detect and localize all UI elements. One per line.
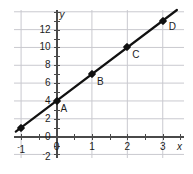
y-tick-label: 10 bbox=[39, 42, 50, 52]
x-axis-tick bbox=[21, 134, 22, 140]
point-label-d: D bbox=[169, 22, 176, 32]
y-tick-label: 12 bbox=[39, 25, 50, 35]
x-tick-label: 2 bbox=[117, 142, 137, 152]
y-axis-tick bbox=[54, 65, 60, 66]
y-axis-tick bbox=[54, 128, 60, 129]
y-axis-tick bbox=[54, 110, 60, 111]
y-tick-label: 4 bbox=[45, 96, 51, 106]
x-axis-tick bbox=[92, 134, 93, 140]
y-axis-tick bbox=[54, 83, 60, 84]
y-axis-tick bbox=[54, 39, 60, 40]
y-tick-label: 6 bbox=[45, 78, 51, 88]
point-label-b: B bbox=[97, 77, 104, 87]
y-axis-tick bbox=[54, 21, 60, 22]
x-axis-tick bbox=[163, 134, 164, 140]
x-tick-label: -1 bbox=[11, 142, 31, 155]
y-axis-tick bbox=[54, 119, 60, 120]
y-axis-tick bbox=[54, 74, 60, 75]
x-axis-tick bbox=[39, 134, 40, 140]
x-axis-tick bbox=[74, 134, 75, 140]
x-axis-tick bbox=[145, 134, 146, 140]
x-axis-tick bbox=[180, 134, 181, 140]
y-axis-tick bbox=[54, 56, 60, 57]
coordinate-graph-figure: -2024681012-10123 ABCD y x bbox=[0, 0, 193, 174]
plot-area: -2024681012-10123 ABCD y x bbox=[14, 10, 184, 158]
y-axis-label: y bbox=[60, 10, 65, 20]
y-tick-label: 2 bbox=[45, 114, 51, 124]
y-axis-tick bbox=[54, 92, 60, 93]
x-tick-label: 0 bbox=[47, 142, 67, 152]
x-axis-tick bbox=[110, 134, 111, 140]
point-label-c: C bbox=[132, 50, 139, 60]
y-axis-tick bbox=[54, 154, 60, 155]
x-axis-tick bbox=[127, 134, 128, 140]
y-axis-tick bbox=[54, 47, 60, 48]
y-tick-label: 8 bbox=[45, 60, 51, 70]
x-tick-label: 3 bbox=[153, 142, 173, 152]
x-tick-label: 1 bbox=[82, 142, 102, 152]
x-axis-label: x bbox=[177, 142, 182, 152]
point-label-a: A bbox=[61, 104, 68, 114]
y-tick-label: 0 bbox=[45, 132, 51, 142]
y-axis-tick bbox=[54, 30, 60, 31]
